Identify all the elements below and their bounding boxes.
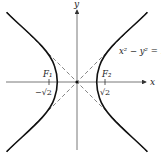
origin-point [75,80,78,83]
x-axis-label: x [150,77,155,87]
focus-f2-coordinate: √2 [100,88,110,97]
y-axis-label: y [73,0,80,9]
equation-label: x² − y² = 1 [119,46,161,56]
focus-f1-label: F₁ [42,69,52,79]
focus-f2-label: F₂ [101,69,112,79]
focus-f1-coordinate: −√2 [35,88,52,97]
hyperbola-diagram: y x x² − y² = 1 F₁ F₂ −√2 √2 [0,0,161,157]
